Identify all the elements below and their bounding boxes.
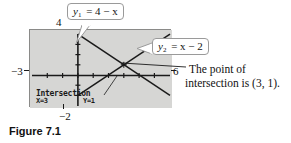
callout-equation-y2: y2 = x − 2: [152, 38, 209, 55]
axis-label-y-min: −2: [59, 110, 71, 122]
callout-y2-subscript: 2: [163, 46, 167, 54]
graphing-calculator-screen: Intersection X=3 Y=1: [29, 29, 171, 107]
annotation-line-2: intersection is (3, 1).: [185, 77, 291, 91]
intersection-annotation: The point of intersection is (3, 1).: [189, 63, 291, 90]
callout-1-tail-joint: [82, 23, 90, 26]
calculator-y-readout: Y=1: [83, 97, 95, 105]
figure-caption: Figure 7.1: [9, 125, 61, 137]
axis-label-x-max: 6: [173, 65, 179, 77]
callout-y1-subscript: 1: [78, 11, 82, 19]
callout-y1-rhs: = 4 − x: [86, 5, 118, 17]
axis-label-y-max: 4: [56, 16, 62, 28]
calculator-x-readout: X=3: [36, 97, 48, 105]
annotation-line-1: The point of: [189, 63, 246, 75]
axis-label-x-min: −3: [11, 65, 23, 77]
figure-container: Intersection X=3 Y=1 4 −3 6 −2 y1 = 4 − …: [0, 0, 291, 143]
callout-y2-rhs: = x − 2: [171, 40, 203, 52]
callout-equation-y1: y1 = 4 − x: [67, 3, 124, 20]
